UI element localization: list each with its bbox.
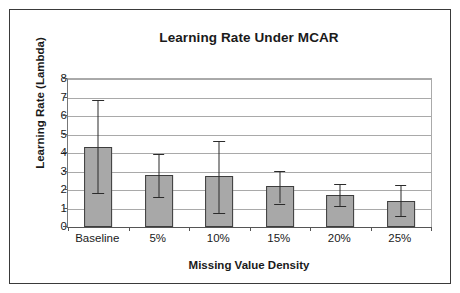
x-tick-mark bbox=[250, 227, 251, 231]
bar-series bbox=[68, 79, 431, 227]
error-bar-line bbox=[400, 185, 401, 216]
error-bar-cap-upper bbox=[395, 185, 407, 186]
error-bar-line bbox=[340, 184, 341, 207]
x-tick-label: 5% bbox=[149, 232, 166, 244]
error-bar-cap-lower bbox=[153, 197, 165, 198]
x-tick-label: 20% bbox=[328, 232, 351, 244]
bar-group bbox=[68, 79, 129, 227]
x-tick-mark bbox=[189, 227, 190, 231]
x-tick-mark bbox=[310, 227, 311, 231]
x-tick-mark bbox=[431, 227, 432, 231]
figure-frame: Learning Rate Under MCAR Learning Rate (… bbox=[9, 9, 451, 284]
y-axis-tick-labels: 012345678 bbox=[41, 78, 67, 226]
error-bar-cap-lower bbox=[92, 193, 104, 194]
plot-area bbox=[67, 78, 432, 228]
error-bar-cap-upper bbox=[274, 171, 286, 172]
x-tick-mark bbox=[129, 227, 130, 231]
error-bar-line bbox=[219, 141, 220, 213]
bar-group bbox=[250, 79, 311, 227]
bar-group bbox=[371, 79, 432, 227]
bar-group bbox=[189, 79, 250, 227]
error-bar-cap-lower bbox=[274, 204, 286, 205]
chart-title: Learning Rate Under MCAR bbox=[67, 30, 431, 45]
error-bar-cap-lower bbox=[334, 206, 346, 207]
x-tick-label: 10% bbox=[207, 232, 230, 244]
error-bar-line bbox=[98, 100, 99, 193]
x-tick-label: 25% bbox=[388, 232, 411, 244]
chart-figure: Learning Rate Under MCAR Learning Rate (… bbox=[0, 0, 460, 293]
error-bar-cap-upper bbox=[153, 154, 165, 155]
x-tick-mark bbox=[68, 227, 69, 231]
x-axis-title: Missing Value Density bbox=[67, 259, 431, 271]
error-bar-cap-upper bbox=[92, 100, 104, 101]
error-bar-cap-lower bbox=[213, 213, 225, 214]
error-bar-cap-upper bbox=[334, 184, 346, 185]
error-bar-line bbox=[158, 154, 159, 197]
error-bar-cap-upper bbox=[213, 141, 225, 142]
x-tick-mark bbox=[371, 227, 372, 231]
error-bar-line bbox=[279, 171, 280, 204]
bar-group bbox=[129, 79, 190, 227]
bar-group bbox=[310, 79, 371, 227]
error-bar-cap-lower bbox=[395, 216, 407, 217]
x-tick-label: 15% bbox=[267, 232, 290, 244]
x-tick-label: Baseline bbox=[75, 232, 119, 244]
